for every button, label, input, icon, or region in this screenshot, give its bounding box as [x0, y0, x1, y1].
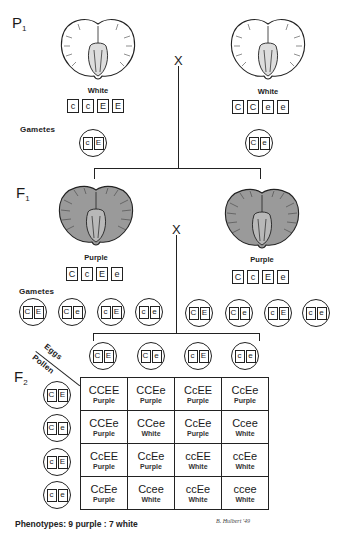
f1-left-gamete: cE	[97, 298, 125, 326]
f1-gametes-label: Gametes	[19, 287, 54, 296]
allele-box: C	[232, 100, 244, 114]
pollen-gamete: ce	[43, 481, 71, 509]
allele-box: c	[67, 99, 79, 113]
p1-right-phenotype: White	[233, 87, 303, 96]
punnett-cell: CcEePurple	[222, 378, 269, 411]
phenotype-ratio: Phenotypes: 9 purple : 7 white	[15, 519, 138, 529]
allele-box: E	[112, 99, 124, 113]
f1-right-branch	[260, 168, 261, 179]
pollen-gamete: CE	[43, 381, 71, 409]
f1-left-phenotype: Purple	[61, 253, 131, 262]
punnett-cell: CceeWhite	[222, 411, 269, 444]
pollen-gamete: Ce	[43, 414, 71, 442]
allele-box: C	[232, 270, 244, 284]
f1-left-gamete: CE	[19, 298, 47, 326]
punnett-cell: ccEEWhite	[175, 444, 222, 477]
punnett-cell: CcEePurple	[128, 444, 175, 477]
f1-right-phenotype: Purple	[227, 255, 297, 264]
allele-box: e	[277, 100, 289, 114]
f1-right-seed-icon	[222, 187, 302, 253]
p1-left-seed-icon	[58, 16, 138, 84]
f1-left-seed-icon	[56, 184, 136, 250]
punnett-cell: ccEeWhite	[222, 444, 269, 477]
f2-right-branch	[259, 333, 260, 341]
p1-left-genotype: c c E E	[67, 99, 124, 113]
f1-generation-label: F1	[16, 184, 30, 203]
punnett-square: CCEEPurple CCEePurple CcEEPurple CcEePur…	[80, 377, 269, 510]
table-row: CCEePurple CCeeWhite CcEePurple CceeWhit…	[81, 411, 269, 444]
allele-box: e	[262, 100, 274, 114]
egg-gamete: Ce	[137, 342, 165, 370]
egg-gamete: cE	[184, 342, 212, 370]
punnett-cell: CceeWhite	[128, 477, 175, 510]
table-row: CcEePurple CceeWhite ccEeWhite cceeWhite	[81, 477, 269, 510]
p1-generation-label: P1	[12, 14, 26, 33]
allele-box: c	[82, 99, 94, 113]
allele-box: E	[96, 267, 108, 281]
punnett-cell: CcEEPurple	[81, 444, 128, 477]
p1-left-gamete: c E	[79, 129, 107, 157]
table-row: CCEEPurple CCEePurple CcEEPurple CcEePur…	[81, 378, 269, 411]
allele-box: e	[111, 267, 123, 281]
allele-box: C	[66, 267, 78, 281]
allele-box: c	[81, 267, 93, 281]
egg-gamete: ce	[231, 342, 259, 370]
f1-right-gamete: ce	[302, 299, 330, 327]
table-row: CcEEPurple CcEePurple ccEEWhite ccEeWhit…	[81, 444, 269, 477]
f1-left-gamete: Ce	[58, 298, 86, 326]
f1-left-branch	[94, 168, 95, 179]
f1-left-gamete: ce	[135, 298, 163, 326]
punnett-cell: CCEEPurple	[81, 378, 128, 411]
punnett-cell: CCeeWhite	[128, 411, 175, 444]
allele-box: E	[262, 270, 274, 284]
f1-right-gamete: cE	[264, 299, 292, 327]
f1-right-gamete: CE	[185, 299, 213, 327]
f2-left-branch	[93, 333, 94, 341]
punnett-cell: CCEePurple	[128, 378, 175, 411]
f2-generation-label: F2	[14, 368, 28, 387]
f1-right-gamete: Ce	[225, 299, 253, 327]
f1-cross-line	[176, 235, 177, 333]
p1-gametes-label: Gametes	[20, 125, 55, 134]
punnett-cell: CCEePurple	[81, 411, 128, 444]
allele-box: C	[247, 100, 259, 114]
allele-box: c	[247, 270, 259, 284]
punnett-cell: CcEePurple	[81, 477, 128, 510]
p1-right-gamete: C e	[245, 129, 273, 157]
punnett-cell: cceeWhite	[222, 477, 269, 510]
allele-box: e	[277, 270, 289, 284]
pollen-gamete: cE	[43, 448, 71, 476]
allele-box: E	[97, 99, 109, 113]
f1-right-genotype: C c E e	[232, 270, 289, 284]
artist-signature: B. Hulbert '49	[216, 518, 250, 524]
p1-right-genotype: C C e e	[232, 100, 289, 114]
p1-left-phenotype: White	[63, 86, 133, 95]
punnett-cell: ccEeWhite	[175, 477, 222, 510]
p1-cross-line	[178, 66, 179, 168]
f1-branch-line	[94, 168, 261, 169]
f1-left-genotype: C c E e	[66, 267, 123, 281]
punnett-cell: CcEEPurple	[175, 378, 222, 411]
punnett-cell: CcEePurple	[175, 411, 222, 444]
egg-gamete: CE	[89, 342, 117, 370]
p1-right-seed-icon	[228, 16, 308, 84]
f2-branch-line	[93, 333, 260, 334]
